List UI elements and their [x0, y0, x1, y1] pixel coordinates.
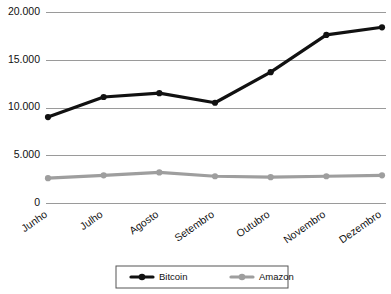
y-tick-label: 10.000 [8, 100, 40, 112]
data-point-bitcoin-outubro [268, 69, 274, 75]
data-point-bitcoin-setembro [212, 100, 218, 106]
y-tick-label: 5.000 [14, 148, 40, 160]
data-point-amazon-setembro [212, 173, 218, 179]
data-point-bitcoin-novembro [323, 32, 329, 38]
legend-label-amazon[interactable]: Amazon [259, 271, 294, 282]
data-point-amazon-dezembro [379, 172, 385, 178]
y-tick-label: 0 [34, 196, 40, 208]
data-point-bitcoin-junho [45, 114, 51, 120]
legend-label-bitcoin[interactable]: Bitcoin [159, 271, 188, 282]
data-point-bitcoin-julho [101, 94, 107, 100]
chart-background [0, 0, 391, 294]
data-point-bitcoin-dezembro [379, 24, 385, 30]
legend-marker-dot-bitcoin [139, 274, 146, 281]
data-point-amazon-julho [101, 172, 107, 178]
legend-marker-dot-amazon [239, 274, 246, 281]
data-point-bitcoin-agosto [156, 90, 162, 96]
data-point-amazon-novembro [323, 173, 329, 179]
y-tick-label: 20.000 [8, 5, 40, 17]
data-point-amazon-junho [45, 175, 51, 181]
chart-legend[interactable]: BitcoinAmazon [116, 266, 294, 288]
line-chart: 05.00010.00015.00020.000 JunhoJulhoAgost… [0, 0, 391, 294]
data-point-amazon-agosto [156, 169, 162, 175]
data-point-amazon-outubro [268, 174, 274, 180]
y-tick-label: 15.000 [8, 53, 40, 65]
chart-canvas: 05.00010.00015.00020.000 JunhoJulhoAgost… [0, 0, 391, 294]
